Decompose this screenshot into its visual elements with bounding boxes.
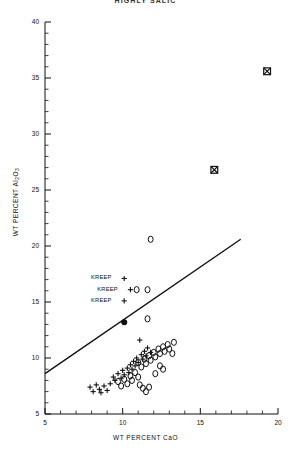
series-crossed-square xyxy=(211,68,271,173)
scatter-plot-canvas xyxy=(0,0,291,457)
y-axis-tick-label: 15 xyxy=(21,298,39,305)
x-axis-tick-label: 20 xyxy=(268,419,288,426)
open-circle-marker xyxy=(147,384,152,390)
chart-container: HIGHLY SALIC WT PERCENT Al2O3 WT PERCENT… xyxy=(0,0,291,457)
y-axis-title-mid: O xyxy=(12,171,19,177)
x-axis-tick-label: 5 xyxy=(35,419,55,426)
y-axis-tick-label: 40 xyxy=(21,18,39,25)
y-axis-title-sub1: 2 xyxy=(14,177,20,180)
y-axis-tick-label: 5 xyxy=(21,410,39,417)
y-axis-tick-label: 10 xyxy=(21,354,39,361)
open-circle-marker xyxy=(148,236,153,242)
x-axis-tick-label: 15 xyxy=(190,419,210,426)
series-filled-circle xyxy=(121,319,127,325)
open-circle-marker xyxy=(161,366,166,372)
open-circle-marker xyxy=(139,364,144,370)
kreep-annotation-label: KREEP xyxy=(76,286,118,292)
series-plus-cluster xyxy=(87,345,153,395)
y-axis-title: WT PERCENT Al2O3 xyxy=(12,142,20,262)
y-axis-title-sub2: 3 xyxy=(14,168,20,171)
trend-line xyxy=(45,239,241,373)
y-axis-title-prefix: WT PERCENT Al xyxy=(12,180,19,236)
kreep-annotation-label: KREEP xyxy=(70,274,112,280)
kreep-annotation-label: KREEP xyxy=(70,297,112,303)
open-circle-marker xyxy=(134,287,139,293)
x-axis-title: WT PERCENT CaO xyxy=(0,434,291,441)
y-axis-tick-label: 35 xyxy=(21,74,39,81)
open-circle-marker xyxy=(157,363,162,369)
open-circle-marker xyxy=(119,383,124,389)
open-circle-marker xyxy=(136,374,141,380)
y-axis-tick-label: 30 xyxy=(21,130,39,137)
open-circle-marker xyxy=(140,385,145,391)
open-circle-marker xyxy=(171,339,176,345)
series-kreep-open-circle xyxy=(134,287,150,293)
filled-circle-marker xyxy=(121,319,127,325)
series-open-circle-isolated xyxy=(145,236,153,322)
x-axis-tick-label: 10 xyxy=(113,419,133,426)
open-circle-marker xyxy=(170,350,175,356)
open-circle-marker xyxy=(137,382,142,388)
open-circle-marker xyxy=(125,381,130,387)
open-circle-marker xyxy=(153,371,158,377)
open-circle-marker xyxy=(145,287,150,293)
open-circle-marker xyxy=(145,316,150,322)
y-axis-tick-label: 20 xyxy=(21,242,39,249)
y-axis-tick-label: 25 xyxy=(21,186,39,193)
